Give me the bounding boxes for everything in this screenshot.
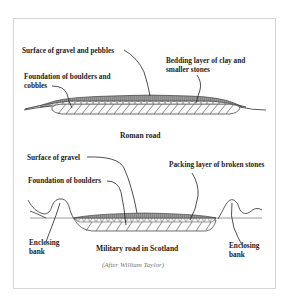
roman-bedding-label-line1: Bedding layer of clay and	[166, 56, 245, 65]
military-foundation-label: Foundation of boulders	[28, 176, 101, 185]
military-packing-label: Packing layer of broken stones	[169, 160, 265, 169]
military-surface-label: Surface of gravel	[27, 153, 80, 162]
military-road-section: Surface of gravel Foundation of boulders…	[27, 153, 265, 269]
roman-surface-leader	[124, 50, 150, 96]
left-enclosing-bank	[28, 199, 74, 219]
roman-foundation-label-line1: Foundation of boulders and	[24, 72, 111, 81]
roman-road-caption: Roman road	[120, 131, 161, 140]
roman-bedding-label-line2: smaller stones	[166, 65, 210, 74]
road-cross-sections-diagram: Surface of gravel and pebbles Foundation…	[0, 0, 291, 302]
right-bank-label-line2: bank	[229, 250, 246, 259]
right-bank-label-line1: Enclosing	[229, 241, 260, 250]
military-surface-layer	[74, 213, 216, 218]
left-bank-leader	[46, 203, 60, 242]
roman-right-tail	[240, 107, 266, 110]
attribution-credit: (After William Taylor)	[102, 261, 165, 269]
left-bank-label-line1: Enclosing	[29, 238, 60, 247]
roman-road-section: Surface of gravel and pebbles Foundation…	[22, 46, 266, 140]
roman-foundation-label-line2: cobbles	[24, 81, 47, 90]
roman-foundation-layer	[52, 104, 240, 114]
left-bank-label-line2: bank	[29, 247, 46, 256]
military-packing-layer	[74, 218, 216, 222]
military-packing-leader	[190, 173, 198, 220]
roman-surface-label: Surface of gravel and pebbles	[22, 46, 114, 55]
right-bank-leader	[231, 203, 242, 245]
right-enclosing-bank	[218, 200, 262, 219]
military-road-caption: Military road in Scotland	[96, 244, 179, 253]
